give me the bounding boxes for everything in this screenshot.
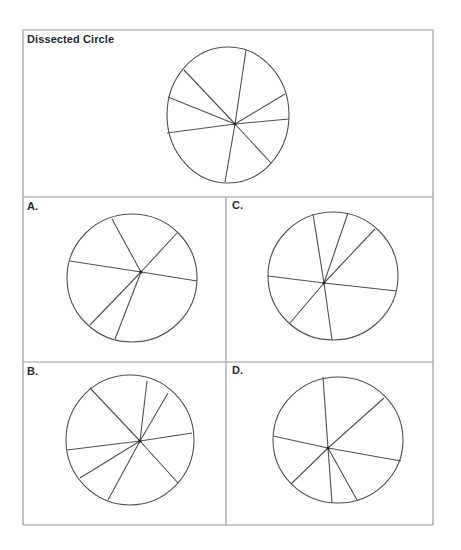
dissection-line bbox=[112, 219, 141, 272]
dissection-line bbox=[90, 388, 140, 441]
dissection-line bbox=[328, 398, 384, 448]
dissection-line bbox=[328, 448, 332, 503]
dissection-line bbox=[141, 233, 177, 272]
dissection-line bbox=[141, 272, 197, 281]
panel-grid bbox=[23, 30, 433, 525]
dissection-line bbox=[291, 448, 328, 484]
dissection-line bbox=[324, 283, 397, 291]
center-point bbox=[138, 439, 141, 442]
option-a-circle bbox=[67, 214, 197, 342]
center-point bbox=[139, 270, 142, 273]
target-circle bbox=[167, 47, 289, 183]
figure-canvas bbox=[0, 0, 461, 550]
dissection-line bbox=[115, 272, 141, 339]
option-d-circle bbox=[273, 377, 403, 503]
circles-layer bbox=[66, 47, 403, 505]
option-c-circle bbox=[268, 212, 398, 340]
dissection-line bbox=[90, 272, 141, 325]
dissection-line bbox=[273, 436, 328, 448]
circle-outline bbox=[66, 375, 194, 505]
dissection-line bbox=[324, 213, 348, 283]
dissection-line bbox=[235, 50, 246, 124]
dissection-line bbox=[268, 276, 324, 283]
center-point bbox=[326, 446, 329, 449]
dissection-line bbox=[235, 124, 271, 163]
dissection-line bbox=[167, 124, 235, 133]
dissection-line bbox=[328, 448, 357, 500]
dissection-line bbox=[140, 441, 178, 483]
dissection-line bbox=[328, 448, 401, 461]
option-d-label: D. bbox=[232, 365, 243, 376]
dissection-line bbox=[80, 441, 140, 478]
dissection-line bbox=[313, 214, 324, 283]
dissection-line bbox=[140, 433, 192, 441]
dissection-line bbox=[140, 393, 168, 441]
option-b-circle bbox=[66, 375, 194, 505]
option-a-label: A. bbox=[27, 201, 38, 212]
dissection-line bbox=[67, 441, 140, 450]
dissection-line bbox=[235, 94, 285, 124]
dissection-line bbox=[108, 441, 140, 500]
dissection-line bbox=[70, 261, 141, 272]
dissection-line bbox=[290, 283, 324, 323]
center-point bbox=[322, 281, 325, 284]
dissection-line bbox=[184, 70, 235, 124]
circle-outline bbox=[268, 212, 398, 340]
dissection-line bbox=[324, 229, 375, 283]
dissection-line bbox=[324, 283, 332, 340]
title-label: Dissected Circle bbox=[27, 34, 114, 45]
dissection-line bbox=[225, 124, 235, 182]
dissection-line bbox=[323, 377, 328, 448]
dissection-line bbox=[140, 381, 147, 441]
center-point bbox=[233, 122, 236, 125]
dissection-line bbox=[168, 97, 235, 124]
option-b-label: B. bbox=[27, 366, 38, 377]
dissected-circle-figure: Dissected Circle A. C. B. D. bbox=[0, 0, 461, 550]
option-c-label: C. bbox=[232, 200, 243, 211]
